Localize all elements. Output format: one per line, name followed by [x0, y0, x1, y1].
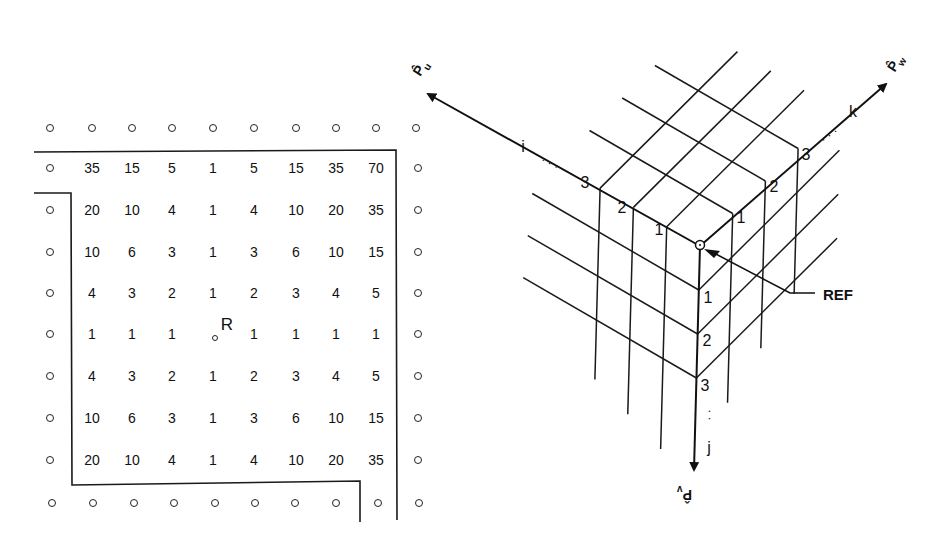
i-axis-label: i	[521, 139, 525, 155]
grid-line	[728, 214, 733, 403]
k-tick-2: 2	[770, 179, 779, 195]
j-axis-label: j	[707, 440, 711, 456]
figure: 3515515153570201041410203510631361015432…	[0, 0, 943, 548]
grid-line	[628, 207, 634, 414]
k-axis-label: k	[849, 104, 857, 120]
j-tick-1: 1	[704, 290, 713, 306]
grid-line	[633, 71, 770, 208]
k-tick-3: 3	[802, 147, 811, 163]
grid-line	[661, 227, 667, 449]
j-tick-2: 2	[703, 333, 712, 349]
grid-line	[761, 181, 766, 348]
i-tick-1: 1	[655, 222, 664, 238]
grid-line	[698, 194, 839, 334]
grid-line	[532, 194, 699, 291]
j-ellipsis: · ·	[704, 409, 716, 420]
grid-line	[655, 66, 798, 149]
j-unit-vector-label: P̂v	[677, 484, 692, 502]
ref-arrowhead-icon	[704, 249, 720, 258]
grid-line	[595, 188, 600, 379]
grid-line	[794, 149, 798, 294]
grid-line	[523, 278, 696, 378]
grid-line	[622, 98, 765, 181]
k-tick-1: 1	[737, 210, 746, 226]
isometric-grid	[0, 0, 943, 548]
j-tick-3: 3	[701, 378, 710, 394]
grid-line	[600, 52, 737, 189]
grid-line	[590, 131, 733, 214]
i-tick-2: 2	[618, 200, 627, 216]
grid-line	[699, 150, 840, 290]
grid-line	[696, 238, 837, 378]
j-axis-arrow	[694, 246, 700, 470]
grid-line	[528, 236, 698, 334]
i-tick-3: 3	[581, 175, 590, 191]
ref-label: REF	[823, 287, 853, 302]
